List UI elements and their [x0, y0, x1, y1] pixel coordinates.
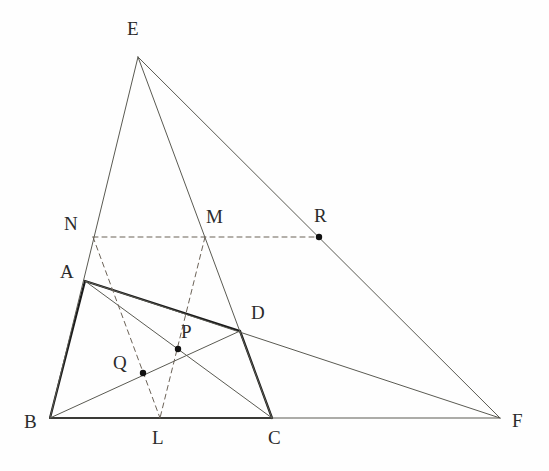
point-label-q: Q [113, 353, 127, 372]
point-label-b: B [24, 412, 37, 431]
point-label-p: P [181, 322, 192, 341]
point-label-l: L [152, 428, 164, 447]
point-marker-p [175, 346, 181, 352]
point-label-f: F [512, 411, 523, 430]
point-label-r: R [314, 206, 327, 225]
geometry-figure: ABCDEFLMNPQR [0, 0, 549, 471]
point-label-m: M [206, 207, 223, 226]
segment-N-L [93, 237, 160, 418]
point-marker-r [316, 234, 322, 240]
point-label-e: E [127, 19, 139, 38]
point-markers-layer [140, 234, 322, 376]
segment-A-F [85, 281, 500, 418]
point-label-d: D [251, 303, 265, 322]
point-label-c: C [268, 428, 281, 447]
point-label-a: A [60, 262, 74, 281]
figure-canvas [0, 0, 549, 471]
point-marker-q [140, 370, 146, 376]
point-label-n: N [64, 214, 78, 233]
